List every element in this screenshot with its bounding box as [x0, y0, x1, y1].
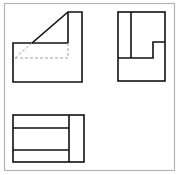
top-view [13, 115, 84, 162]
front-view-hidden-lines [15, 43, 68, 58]
outer-frame [5, 4, 175, 171]
front-view-outline [13, 12, 82, 82]
side-view [118, 12, 165, 81]
projection-drawing [0, 0, 177, 175]
side-view-outline [118, 12, 165, 81]
front-view [13, 12, 82, 82]
top-view-outline [13, 115, 84, 162]
